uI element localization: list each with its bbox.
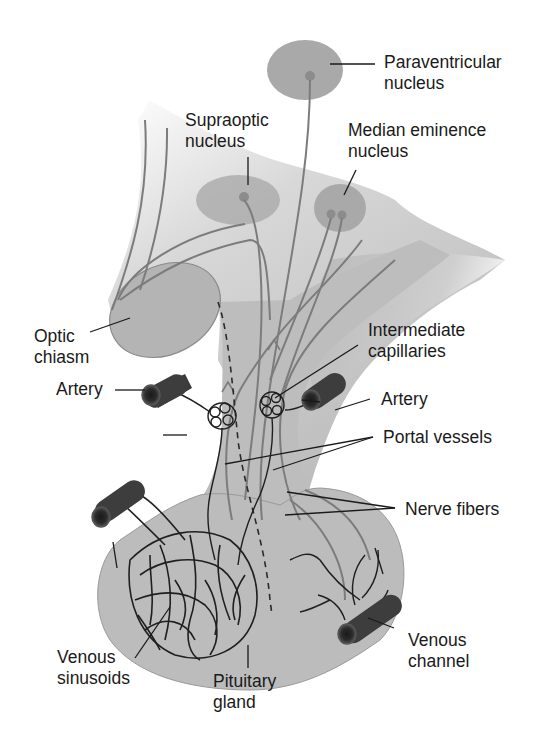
label-optic-chiasm: Optic chiasm xyxy=(34,326,89,368)
artery-upper-left xyxy=(91,476,149,527)
artery-left xyxy=(141,370,192,411)
label-intermediate-capillaries: Intermediate capillaries xyxy=(368,320,465,362)
label-median-eminence-nucleus: Median eminence nucleus xyxy=(348,120,486,162)
label-artery-left: Artery xyxy=(56,379,103,400)
label-portal-vessels: Portal vessels xyxy=(383,427,492,448)
pituitary-gland xyxy=(98,488,404,690)
label-venous-channel: Venous channel xyxy=(408,630,469,672)
label-artery-right: Artery xyxy=(381,389,428,410)
label-supraoptic-nucleus: Supraoptic nucleus xyxy=(185,110,269,152)
label-paraventricular-nucleus: Paraventricular nucleus xyxy=(384,52,502,94)
supraoptic-nucleus-shape xyxy=(196,175,280,225)
label-pituitary-gland: Pituitary gland xyxy=(213,671,276,713)
paraventricular-nucleus-shape xyxy=(267,40,343,100)
label-nerve-fibers: Nerve fibers xyxy=(405,499,499,520)
label-venous-sinusoids: Venous sinusoids xyxy=(57,647,130,689)
